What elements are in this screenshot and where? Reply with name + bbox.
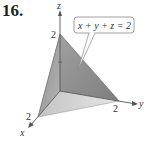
- equation-label: x + y + z = 2: [77, 20, 131, 31]
- x-axis-label: x: [19, 127, 25, 138]
- z-tick-label: 2: [51, 29, 56, 40]
- x-tick-label: 2: [26, 111, 31, 122]
- y-axis-label: y: [138, 98, 144, 109]
- z-axis-label: z: [56, 0, 61, 11]
- y-tick-label: 2: [113, 103, 118, 114]
- plane-surface: [38, 34, 119, 117]
- plane-diagram: z 2 y 2 x 2 x + y + z = 2: [0, 0, 148, 147]
